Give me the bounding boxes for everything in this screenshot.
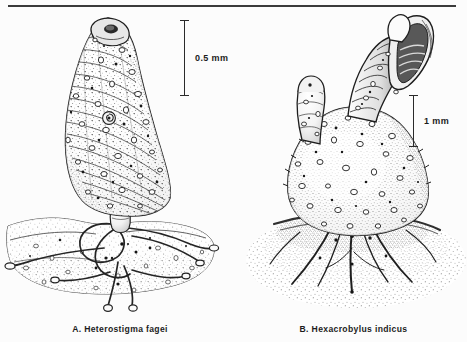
scale-bar-b-bottom-cap — [409, 146, 418, 147]
scale-bar-a-label: 0.5 mm — [195, 53, 228, 63]
caption-panel-a: A. Heterostigma fagei — [0, 324, 240, 334]
scale-bar-a-bottom-cap — [180, 95, 189, 96]
figure-panel-a: 0.5 mm A. Heterostigma fagei — [0, 0, 240, 342]
lateral-process-b — [297, 76, 325, 144]
illustration-hexacrobylus-indicus — [240, 0, 467, 342]
figure-panel-b: 1 mm B. Hexacrobylus indicus — [240, 0, 467, 342]
papilla-a — [103, 112, 116, 125]
caption-panel-b: B. Hexacrobylus indicus — [240, 324, 467, 334]
scale-bar-a-stem — [184, 20, 185, 96]
flared-siphon-b — [348, 15, 434, 122]
scale-bar-b-stem — [413, 95, 414, 147]
illustration-heterostigma-fagei — [0, 0, 240, 342]
figure-plate: 0.5 mm A. Heterostigma fagei — [0, 0, 467, 342]
ascidian-body-a — [60, 10, 180, 225]
scale-bar-b-label: 1 mm — [424, 116, 449, 126]
